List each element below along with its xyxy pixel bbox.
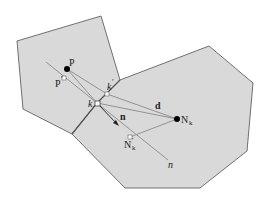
label-d: d bbox=[155, 100, 161, 111]
label-N-k-prime: N bbox=[124, 139, 131, 150]
point-k-prime bbox=[105, 92, 109, 96]
label-P-prime-mark: ′ bbox=[61, 75, 63, 84]
diagram-canvas: P P ′ k ′ k d n N k N k ′ n bbox=[0, 0, 269, 203]
point-N-k bbox=[174, 116, 180, 122]
label-N-k-sub: k bbox=[189, 119, 193, 127]
label-N-k-prime-sub: k bbox=[132, 144, 136, 152]
label-k: k bbox=[88, 98, 93, 109]
label-n-vector: n bbox=[120, 111, 126, 122]
label-N-k: N bbox=[181, 114, 188, 125]
label-P: P bbox=[69, 57, 75, 68]
point-k bbox=[95, 101, 100, 106]
label-k-prime-mark: ′ bbox=[112, 78, 114, 87]
label-n-line: n bbox=[168, 159, 173, 170]
